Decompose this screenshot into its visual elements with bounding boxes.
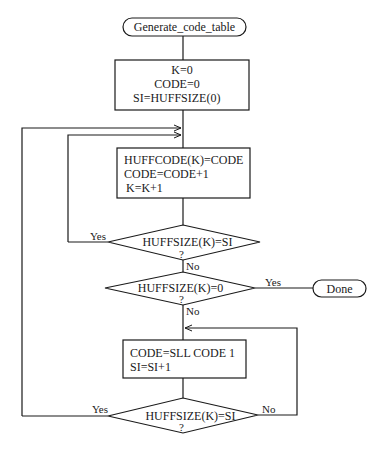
decision1-label: HUFFSIZE(K)=SI [115,236,260,249]
shift-line-1: CODE=SLL CODE 1 [130,347,235,360]
decision2-question: ? [179,293,184,305]
assign-line-1: HUFFCODE(K)=CODE [124,154,243,167]
start-label: Generate_code_table [123,21,246,34]
assign-line-3: K=K+1 [126,182,163,195]
decision1-yes: Yes [90,230,106,242]
shift-line-2: SI=SI+1 [130,361,171,374]
decision2-yes: Yes [265,276,281,288]
init-line-2: CODE=0 [110,78,244,91]
decision1-no: No [186,260,199,272]
decision2-no: No [186,305,199,317]
decision3-yes: Yes [92,403,108,415]
decision3-label: HUFFSIZE(K)=SI [118,410,263,423]
done-label: Done [313,283,366,296]
init-line-3: SI=HUFFSIZE(0) [133,92,220,105]
decision3-question: ? [179,421,184,433]
init-line-1: K=0 [115,64,249,77]
assign-line-2: CODE=CODE+1 [124,168,209,181]
decision3-no: No [262,403,275,415]
decision1-question: ? [179,248,184,260]
